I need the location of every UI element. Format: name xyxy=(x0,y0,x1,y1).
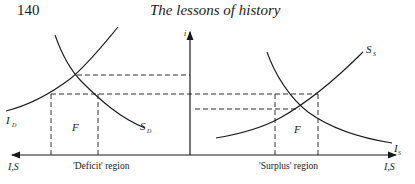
investment-curve-deficit xyxy=(6,27,118,111)
saving-curve-surplus-label: S S xyxy=(366,43,376,57)
svg-text:D: D xyxy=(11,122,17,128)
svg-text:D: D xyxy=(146,128,152,134)
open-economy-diagram: i I,S I,S I D S D F S S I S F 'Deficit' … xyxy=(0,0,415,184)
svg-text:S: S xyxy=(398,150,401,156)
surplus-region-label: 'Surplus' region xyxy=(259,161,318,171)
investment-curve-deficit-label: I D xyxy=(5,114,17,128)
deficit-region-label: 'Deficit' region xyxy=(73,161,130,171)
saving-curve-deficit-label: S D xyxy=(140,120,152,134)
investment-curve-surplus-label: I S xyxy=(393,142,401,156)
svg-text:I: I xyxy=(5,114,11,126)
horizontal-axis-label-left: I,S xyxy=(7,161,19,172)
gap-label-surplus: F xyxy=(293,123,301,135)
axes xyxy=(12,32,396,155)
svg-text:S: S xyxy=(140,120,146,132)
horizontal-axis-label-right: I,S xyxy=(383,161,395,172)
gap-label-deficit: F xyxy=(71,121,79,133)
saving-curve-surplus xyxy=(216,52,363,138)
svg-text:S: S xyxy=(366,43,372,55)
dashed-guides xyxy=(51,75,318,155)
investment-curve-surplus xyxy=(267,52,392,143)
svg-text:S: S xyxy=(373,51,376,57)
vertical-axis-label: i xyxy=(184,29,186,38)
